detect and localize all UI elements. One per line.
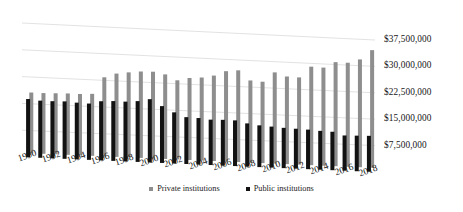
legend-swatch-public-icon — [246, 187, 250, 191]
y-axis-tick-label: $37,500,000 — [384, 34, 432, 44]
bar-public[interactable] — [257, 125, 261, 167]
gridline — [22, 50, 375, 67]
y-axis-tick-label: $30,000,000 — [384, 60, 432, 70]
gridline — [22, 23, 375, 40]
legend-item-public[interactable]: Public institutions — [246, 184, 314, 193]
y-axis-tick-label: $22,500,000 — [384, 87, 432, 97]
legend-swatch-private-icon — [149, 187, 153, 191]
bar-public[interactable] — [136, 101, 140, 162]
legend-label-public: Public institutions — [254, 184, 314, 193]
legend-label-private: Private institutions — [157, 184, 219, 193]
chart-plot-area — [0, 0, 463, 212]
bar-public[interactable] — [111, 101, 115, 161]
bar-public[interactable] — [355, 136, 359, 172]
chart-legend: Private institutions Public institutions — [0, 184, 463, 193]
bar-public[interactable] — [63, 101, 67, 158]
legend-item-private[interactable]: Private institutions — [149, 184, 219, 193]
y-axis-tick-label: $15,000,000 — [384, 113, 432, 123]
bar-public[interactable] — [330, 132, 334, 170]
bar-public[interactable] — [209, 120, 213, 165]
bar-public[interactable] — [38, 101, 42, 158]
bar-public[interactable] — [160, 106, 164, 163]
chart-container: $7,500,000$15,000,000$22,500,000$30,000,… — [0, 0, 463, 212]
bar-public[interactable] — [233, 120, 237, 166]
bar-public[interactable] — [306, 130, 310, 170]
bar-public[interactable] — [87, 104, 91, 160]
bar-public[interactable] — [184, 117, 188, 164]
bar-public[interactable] — [282, 128, 286, 168]
y-axis-tick-label: $7,500,000 — [384, 140, 427, 150]
